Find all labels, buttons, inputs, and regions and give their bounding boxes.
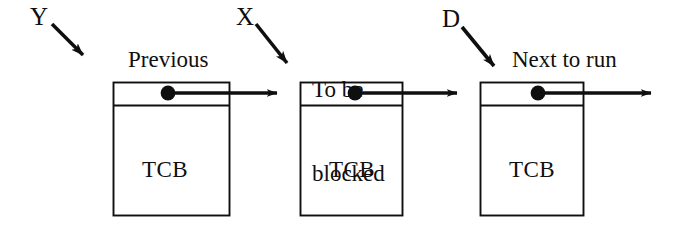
node-body-label-previous: TCB (142, 158, 188, 181)
link-arrow-next-to-tail (531, 86, 651, 101)
link-arrow-previous-to-blocked (161, 86, 277, 101)
node-caption-to-be-blocked: To be blocked (312, 20, 385, 238)
pointer-label-d: D (442, 6, 460, 31)
node-caption-next-to-run: Next to run (512, 48, 617, 71)
pointer-arrow-x (256, 24, 287, 63)
node-body-label-to-be-blocked: TCB (329, 158, 375, 181)
pointer-label-x: X (236, 4, 254, 29)
pointer-label-y: Y (30, 4, 48, 29)
diagram-canvas: Y X D Previous To be blocked Next to run… (0, 0, 690, 238)
node-caption-line-1: To be (312, 76, 385, 104)
node-caption-previous: Previous (128, 48, 209, 71)
node-body-label-next-to-run: TCB (509, 158, 555, 181)
node-box-previous (114, 83, 230, 216)
node-box-next-to-run (481, 83, 584, 216)
pointer-arrow-y (52, 24, 83, 55)
pointer-arrow-d (462, 27, 494, 66)
